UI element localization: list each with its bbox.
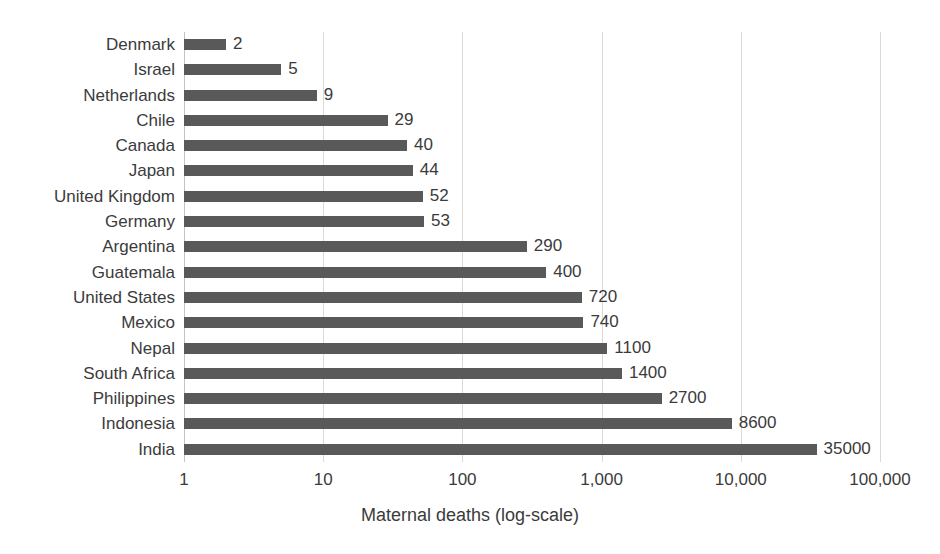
bar-row: 44: [184, 158, 940, 183]
bar-row: 40: [184, 133, 940, 158]
bar-value-label: 1400: [629, 362, 667, 384]
category-label: South Africa: [0, 361, 175, 386]
bar-value-label: 400: [553, 261, 581, 283]
category-label: Canada: [0, 133, 175, 158]
bar: [184, 418, 732, 429]
x-tick-label: 100,000: [849, 468, 910, 492]
bar: [184, 64, 281, 75]
bar-row: 1400: [184, 361, 940, 386]
bar-row: 400: [184, 260, 940, 285]
category-label: Nepal: [0, 336, 175, 361]
category-label: Chile: [0, 108, 175, 133]
category-label: Netherlands: [0, 83, 175, 108]
category-label: Israel: [0, 57, 175, 82]
category-label: Germany: [0, 209, 175, 234]
bar-value-label: 1100: [614, 337, 651, 359]
bar-row: 1100: [184, 336, 940, 361]
bar: [184, 191, 423, 202]
maternal-deaths-bar-chart: DenmarkIsraelNetherlandsChileCanadaJapan…: [0, 0, 940, 554]
x-tick-label: 1: [179, 468, 188, 492]
bar-row: 2700: [184, 386, 940, 411]
bar-value-label: 2: [233, 33, 242, 55]
bar-row: 720: [184, 285, 940, 310]
bar-row: 35000: [184, 437, 940, 462]
category-label: Japan: [0, 158, 175, 183]
bar-row: 9: [184, 83, 940, 108]
bar: [184, 317, 583, 328]
bar: [184, 115, 388, 126]
bar-value-label: 720: [589, 286, 617, 308]
bar-value-label: 290: [534, 235, 562, 257]
bar-row: 290: [184, 234, 940, 259]
x-axis-title: Maternal deaths (log-scale): [0, 505, 940, 526]
x-tick-label: 10,000: [715, 468, 767, 492]
x-tick-label: 100: [448, 468, 476, 492]
category-label: Mexico: [0, 310, 175, 335]
bar-rows: 2592940445253290400720740110014002700860…: [184, 32, 880, 462]
plot-area: 2592940445253290400720740110014002700860…: [184, 32, 880, 462]
bar-row: 52: [184, 184, 940, 209]
bar-value-label: 5: [288, 58, 297, 80]
bar: [184, 140, 407, 151]
bar: [184, 393, 662, 404]
bar: [184, 343, 607, 354]
bar: [184, 165, 413, 176]
x-tick-label: 1,000: [580, 468, 623, 492]
bar: [184, 292, 582, 303]
bar-value-label: 52: [430, 185, 449, 207]
x-axis-tick-labels: 1101001,00010,000100,000: [0, 468, 940, 496]
bar-row: 53: [184, 209, 940, 234]
bar-value-label: 9: [324, 84, 333, 106]
category-label: Denmark: [0, 32, 175, 57]
bar-value-label: 2700: [669, 387, 707, 409]
bar-row: 740: [184, 310, 940, 335]
bar: [184, 241, 527, 252]
bar-value-label: 53: [431, 210, 450, 232]
bar-value-label: 740: [590, 311, 618, 333]
bar-row: 8600: [184, 411, 940, 436]
bar: [184, 267, 546, 278]
bar-value-label: 40: [414, 134, 433, 156]
category-label: Philippines: [0, 386, 175, 411]
category-label: Indonesia: [0, 411, 175, 436]
bar: [184, 90, 317, 101]
bar-value-label: 29: [395, 109, 414, 131]
category-label: India: [0, 437, 175, 462]
bar: [184, 368, 622, 379]
bar-row: 5: [184, 57, 940, 82]
x-tick-label: 10: [314, 468, 333, 492]
bar-value-label: 44: [420, 159, 439, 181]
bar: [184, 444, 817, 455]
category-label: United States: [0, 285, 175, 310]
category-label: Argentina: [0, 234, 175, 259]
category-label: Guatemala: [0, 260, 175, 285]
category-axis-labels: DenmarkIsraelNetherlandsChileCanadaJapan…: [0, 32, 175, 462]
bar-row: 2: [184, 32, 940, 57]
bar-value-label: 35000: [824, 438, 871, 460]
bar: [184, 39, 226, 50]
bar: [184, 216, 424, 227]
bar-value-label: 8600: [739, 412, 777, 434]
bar-row: 29: [184, 108, 940, 133]
category-label: United Kingdom: [0, 184, 175, 209]
